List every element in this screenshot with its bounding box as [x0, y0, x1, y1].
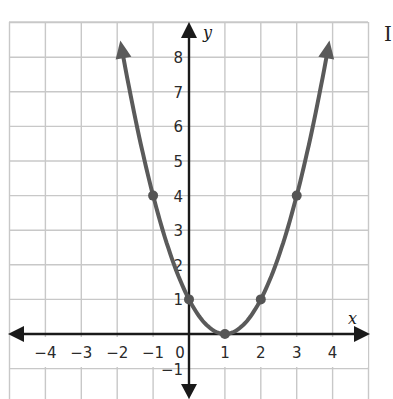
x-tick-label: 4 — [328, 344, 338, 362]
y-axis-label: y — [202, 23, 213, 42]
x-tick-label: −3 — [70, 344, 92, 362]
data-point — [256, 294, 266, 304]
data-point — [184, 294, 194, 304]
x-tick-label: 3 — [292, 344, 302, 362]
y-tick-label: 3 — [173, 222, 183, 240]
data-point — [220, 329, 230, 339]
y-tick-label: 1 — [173, 291, 183, 309]
x-tick-label: 0 — [175, 344, 185, 362]
y-tick-label: −1 — [161, 361, 183, 379]
x-axis-label: x — [348, 309, 357, 328]
cropped-text-fragment: I — [384, 22, 392, 46]
data-point — [292, 191, 302, 201]
parabola-graph: −4−3−2−101234−112345678 x y — [0, 0, 393, 399]
x-tick-label: −2 — [106, 344, 128, 362]
data-point — [148, 191, 158, 201]
x-tick-label: −4 — [34, 344, 56, 362]
x-tick-label: 1 — [220, 344, 230, 362]
y-tick-label: 8 — [173, 49, 183, 67]
x-tick-label: 2 — [256, 344, 266, 362]
x-tick-label: −1 — [142, 344, 164, 362]
y-tick-label: 5 — [173, 153, 183, 171]
y-tick-label: 6 — [173, 118, 183, 136]
y-tick-label: 4 — [173, 188, 183, 206]
y-tick-label: 7 — [173, 84, 183, 102]
